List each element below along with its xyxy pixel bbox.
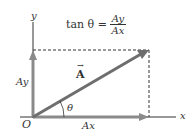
formula-fraction: Ay Ax [110, 13, 126, 36]
ax-label: Ax [82, 120, 95, 131]
formula-numerator: Ay [112, 13, 124, 24]
theta-label: θ [67, 102, 73, 113]
x-axis-label: x [180, 110, 186, 121]
vector-a-label: → A [76, 68, 85, 81]
formula-prefix: tan θ = [66, 18, 107, 31]
origin-label: O [22, 118, 31, 131]
ay-label: Ay [16, 76, 28, 87]
angle-arc [60, 101, 64, 117]
ax-arrowhead [139, 113, 149, 121]
vector-a [33, 54, 141, 117]
vector-arrow-icon: → [77, 61, 84, 70]
y-axis-label: y [31, 10, 37, 21]
formula-denominator: Ax [111, 25, 124, 36]
ay-arrowhead [29, 50, 37, 60]
tangent-formula: tan θ = Ay Ax [66, 13, 126, 36]
